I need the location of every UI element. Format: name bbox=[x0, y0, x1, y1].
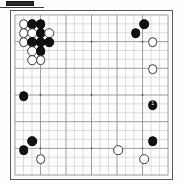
go-stone-black[interactable] bbox=[19, 91, 29, 101]
go-stone-white[interactable] bbox=[36, 55, 46, 65]
go-stone-black[interactable]: 1 bbox=[148, 100, 158, 110]
go-stone-black[interactable] bbox=[131, 28, 141, 38]
figure-canvas: 1 bbox=[0, 0, 182, 187]
go-stone-black[interactable] bbox=[19, 145, 29, 155]
go-stone-black[interactable] bbox=[148, 136, 158, 146]
figure-label-underline bbox=[0, 7, 44, 8]
go-stone-white[interactable] bbox=[148, 64, 158, 74]
go-stone-black[interactable] bbox=[27, 136, 37, 146]
go-stone-white[interactable] bbox=[139, 154, 149, 164]
go-stone-white[interactable] bbox=[36, 154, 46, 164]
go-stone-black[interactable] bbox=[45, 37, 55, 47]
go-stone-move-number: 1 bbox=[149, 101, 157, 109]
go-stone-white[interactable] bbox=[114, 145, 124, 155]
figure-label-chip bbox=[6, 1, 34, 6]
go-board[interactable]: 1 bbox=[10, 10, 173, 180]
go-stone-black[interactable] bbox=[139, 19, 149, 29]
go-stone-white[interactable] bbox=[148, 37, 158, 47]
go-board-stones: 1 bbox=[11, 11, 172, 179]
